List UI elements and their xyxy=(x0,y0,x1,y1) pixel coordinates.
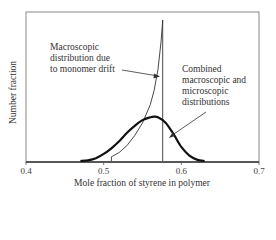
annotation-line: Combined xyxy=(182,64,246,75)
annotation-arrow-1 xyxy=(122,70,158,76)
annotation-line: microscopic xyxy=(182,86,246,97)
x-tick-label: 0.7 xyxy=(253,166,264,176)
annotation-combined: Combined macroscopic and microscopic dis… xyxy=(182,64,246,108)
annotation-line: to monomer drift xyxy=(50,64,115,75)
x-axis-label: Mole fraction of styrene in polymer xyxy=(74,178,210,188)
x-tick-label: 0.4 xyxy=(20,166,31,176)
x-tick-label: 0.6 xyxy=(176,166,187,176)
annotation-line: Macroscopic xyxy=(50,42,115,53)
annotation-line: macroscopic and xyxy=(182,75,246,86)
annotation-arrow-2 xyxy=(171,112,206,136)
y-axis-label: Number fraction xyxy=(8,61,18,124)
annotation-line: distribution due xyxy=(50,53,115,64)
x-tick-label: 0.5 xyxy=(98,166,109,176)
annotation-macroscopic: Macroscopic distribution due to monomer … xyxy=(50,42,115,75)
annotation-line: distributions xyxy=(182,97,246,108)
